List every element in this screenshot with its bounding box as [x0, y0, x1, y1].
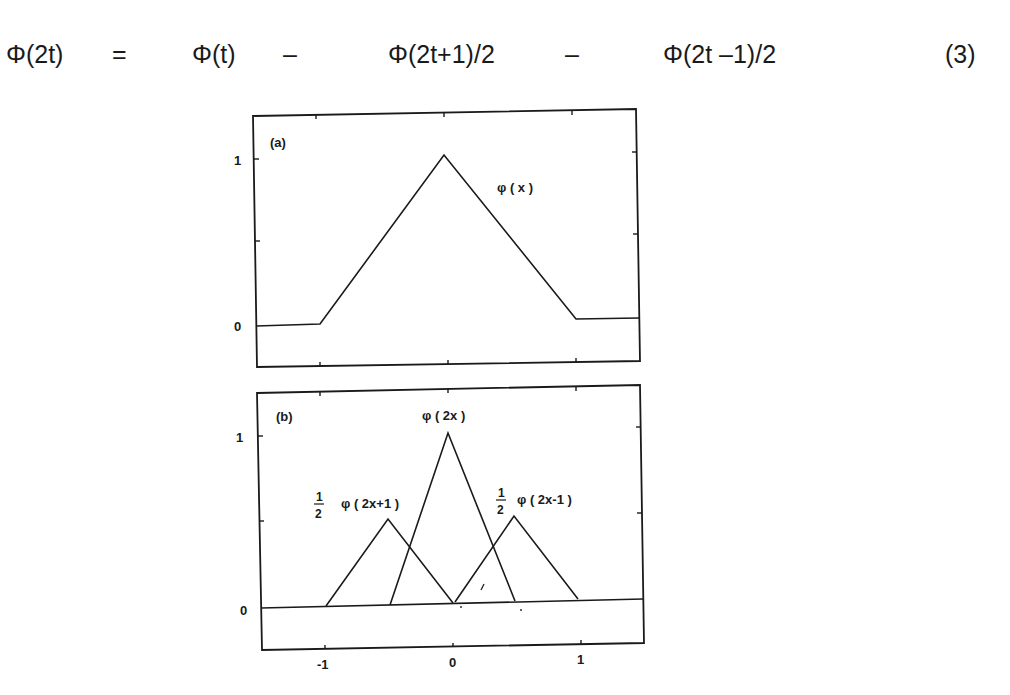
fraction-numerator: 1 [498, 486, 505, 500]
y-tick-label-1: 1 [234, 153, 241, 168]
curve-label-half-phi-2x-minus-1: 1 2 φ ( 2x-1 ) [496, 486, 572, 517]
figure: 1 0 (a) φ ( x ) 1 0 -1 0 1 (b) [0, 0, 1010, 695]
y-tick-label-0: 0 [240, 603, 247, 618]
curve-half-phi-2x-minus-1 [455, 516, 578, 602]
label-text: φ ( 2x+1 ) [341, 496, 399, 511]
curve-label-phi-2x: φ ( 2x ) [422, 408, 465, 423]
curve-phi-x [256, 155, 639, 326]
fraction-numerator: 1 [316, 490, 323, 504]
curve-phi-2x [390, 433, 515, 605]
panel-label-a: (a) [270, 135, 286, 150]
curve-label-phi-x: φ ( x ) [497, 180, 533, 195]
fraction-denominator: 2 [497, 503, 504, 517]
y-tick-label-0: 0 [234, 319, 241, 334]
fraction-denominator: 2 [315, 507, 322, 521]
baseline-zero [261, 599, 643, 608]
panel-a: 1 0 (a) φ ( x ) [234, 109, 640, 367]
panel-label-b: (b) [276, 409, 293, 424]
curve-label-half-phi-2x-plus-1: 1 2 φ ( 2x+1 ) [314, 490, 399, 521]
x-tick-label-1: 1 [577, 652, 584, 667]
y-tick-label-1: 1 [236, 430, 243, 445]
x-tick-label-neg1: -1 [317, 657, 329, 672]
scan-artifact [460, 606, 462, 608]
scan-artifact [520, 609, 522, 611]
curve-half-phi-2x-plus-1 [326, 519, 453, 606]
panel-a-frame [253, 109, 640, 367]
panel-b: 1 0 -1 0 1 (b) φ ( 2x ) 1 2 φ ( 2x+1 ) [236, 385, 644, 672]
scan-artifact [481, 584, 484, 590]
label-text: φ ( 2x-1 ) [517, 492, 572, 507]
x-tick-label-0: 0 [449, 655, 456, 670]
